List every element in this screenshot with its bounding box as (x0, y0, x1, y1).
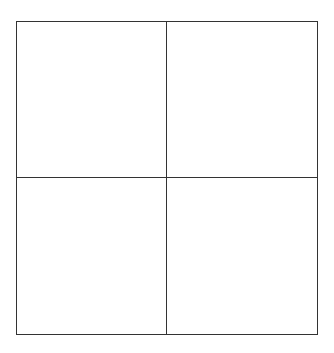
grid-cell-top-left (17, 22, 167, 178)
two-by-two-grid (16, 21, 318, 335)
grid-cell-top-right (167, 22, 317, 178)
grid-cell-bottom-right (167, 178, 317, 334)
grid-cell-bottom-left (17, 178, 167, 334)
